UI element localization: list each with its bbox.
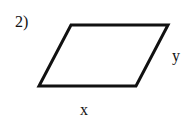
parallelogram-figure xyxy=(0,0,192,122)
side-label-x: x xyxy=(80,102,88,118)
parallelogram-shape xyxy=(39,25,168,86)
side-label-y: y xyxy=(172,48,180,64)
